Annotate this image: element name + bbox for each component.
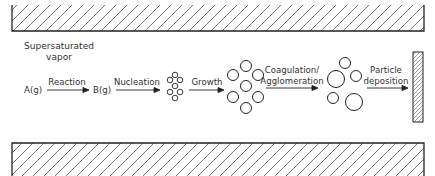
coagulation-line-2: Agglomeration: [260, 76, 323, 87]
diagram-canvas: [0, 0, 435, 176]
reaction-label: Reaction: [48, 77, 85, 88]
growth-label: Growth: [191, 77, 222, 88]
title-line-2: vapor: [24, 52, 94, 63]
agglomerated-particles: [328, 58, 363, 111]
growth-arrow: [189, 88, 224, 93]
coagulation-label: Coagulation/ Agglomeration: [260, 65, 323, 87]
deposition-line-1: Particle: [364, 65, 409, 76]
title-line-1: Supersaturated: [24, 41, 94, 52]
reaction-arrow: [47, 88, 89, 93]
nuclei-cluster: [167, 72, 183, 101]
grown-particles: [228, 61, 264, 114]
bottom-wall: [12, 143, 424, 176]
deposition-label: Particle deposition: [364, 65, 409, 87]
top-wall: [12, 5, 424, 31]
coagulation-line-1: Coagulation/: [260, 65, 323, 76]
nucleation-label: Nucleation: [114, 77, 160, 88]
deposition-plate: [413, 52, 423, 122]
species-a: A(g): [24, 85, 42, 96]
species-b: B(g): [93, 85, 111, 96]
supersaturated-vapor-label: Supersaturated vapor: [24, 41, 94, 63]
nucleation-arrow: [116, 88, 160, 93]
deposition-line-2: deposition: [364, 76, 409, 87]
